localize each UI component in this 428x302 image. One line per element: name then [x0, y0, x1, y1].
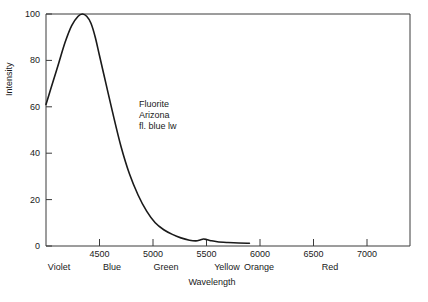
band-label-violet: Violet [36, 262, 82, 272]
annotation-line-fluorescence: fl. blue lw [139, 121, 177, 132]
annotation-line-locality: Arizona [139, 110, 177, 121]
fluorescence-spectrum-figure: 0 20 40 60 80 100 4500 5000 5500 6000 65… [0, 0, 428, 302]
ytick-label-80: 80 [16, 55, 40, 65]
y-axis-title: Intensity [4, 62, 14, 96]
plot-frame [46, 14, 410, 246]
xtick-label-5500: 5500 [187, 249, 227, 259]
band-label-green: Green [143, 262, 189, 272]
sample-annotation: Fluorite Arizona fl. blue lw [139, 99, 177, 132]
xtick-label-7000: 7000 [347, 249, 387, 259]
ytick-label-60: 60 [16, 102, 40, 112]
ytick-label-40: 40 [16, 148, 40, 158]
y-axis-ticks [46, 14, 52, 246]
annotation-line-mineral: Fluorite [139, 99, 177, 110]
band-label-blue: Blue [89, 262, 135, 272]
xtick-label-6000: 6000 [240, 249, 280, 259]
band-label-orange: Orange [236, 262, 282, 272]
ytick-label-100: 100 [16, 9, 40, 19]
ytick-label-0: 0 [16, 241, 40, 251]
xtick-label-4500: 4500 [80, 249, 120, 259]
x-axis-title: Wavelength [162, 277, 262, 287]
band-label-red: Red [307, 262, 353, 272]
xtick-label-6500: 6500 [294, 249, 334, 259]
xtick-label-5000: 5000 [133, 249, 173, 259]
ytick-label-20: 20 [16, 195, 40, 205]
